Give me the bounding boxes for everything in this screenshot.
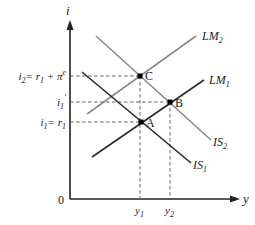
x-axis-label: y bbox=[241, 191, 249, 206]
y-axis-label: i bbox=[66, 3, 70, 18]
axes: i y 0 bbox=[58, 3, 249, 207]
is2-label: IS2 bbox=[212, 135, 227, 151]
curves bbox=[82, 36, 211, 163]
point-b-label: B bbox=[175, 96, 183, 110]
y-tick-i1-label: i1= r1 bbox=[40, 116, 66, 131]
is-lm-diagram: i y 0 C B A LM2 LM1 IS2 IS1 i2= r1 + πe … bbox=[0, 0, 255, 225]
point-a-label: A bbox=[146, 116, 155, 130]
point-c-marker bbox=[138, 74, 143, 79]
x-axis-arrow-icon bbox=[230, 196, 240, 203]
x-tick-y1-label: y1 bbox=[134, 204, 144, 219]
point-b-marker bbox=[168, 100, 173, 105]
lm1-label: LM1 bbox=[208, 73, 230, 89]
y-tick-i2-label: i2= r1 + πe bbox=[18, 68, 66, 85]
is1-label: IS1 bbox=[192, 158, 207, 174]
equilibrium-points bbox=[138, 74, 173, 125]
y-axis-arrow-icon bbox=[67, 20, 74, 30]
lm2-label: LM2 bbox=[201, 29, 223, 45]
origin-label: 0 bbox=[58, 193, 64, 207]
x-tick-y2-label: y2 bbox=[164, 204, 174, 219]
point-c-label: C bbox=[145, 69, 153, 83]
y-tick-i1prime-label: i1′ bbox=[57, 92, 67, 111]
is1-curve bbox=[82, 72, 191, 163]
point-a-marker bbox=[139, 120, 144, 125]
